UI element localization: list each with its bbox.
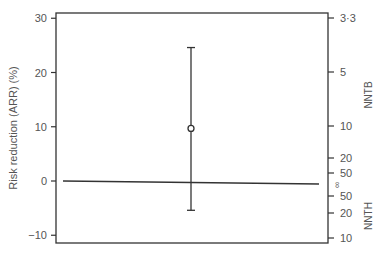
- nntb-label: NNTB: [363, 81, 374, 109]
- y-tick-label: −10: [28, 229, 47, 241]
- data-points: [187, 48, 195, 211]
- right-tick-label: 50: [340, 167, 352, 179]
- left-axis: 3020100−10: [28, 12, 56, 241]
- infinity-label: ∞: [332, 182, 342, 188]
- y-tick-label: 10: [35, 121, 47, 133]
- right-tick-label: 50: [340, 190, 352, 202]
- y-tick-label: 0: [41, 175, 47, 187]
- right-axis: 3·35102050∞502010: [328, 12, 356, 244]
- y-axis-label: Risk reduction (ARR) (%): [7, 66, 19, 189]
- right-tick-label: 20: [340, 152, 352, 164]
- nnth-label: NNTH: [363, 202, 374, 230]
- right-tick-label: 10: [340, 232, 352, 244]
- right-tick-label: 3·3: [340, 12, 356, 24]
- point-estimate-marker: [188, 125, 194, 131]
- right-tick-label: 20: [340, 207, 352, 219]
- right-tick-label: 5: [340, 66, 346, 78]
- chart: 3020100−10 3·35102050∞502010 Risk reduct…: [0, 0, 381, 258]
- right-tick-label: 10: [340, 120, 352, 132]
- y-tick-label: 20: [35, 67, 47, 79]
- y-tick-label: 30: [35, 12, 47, 24]
